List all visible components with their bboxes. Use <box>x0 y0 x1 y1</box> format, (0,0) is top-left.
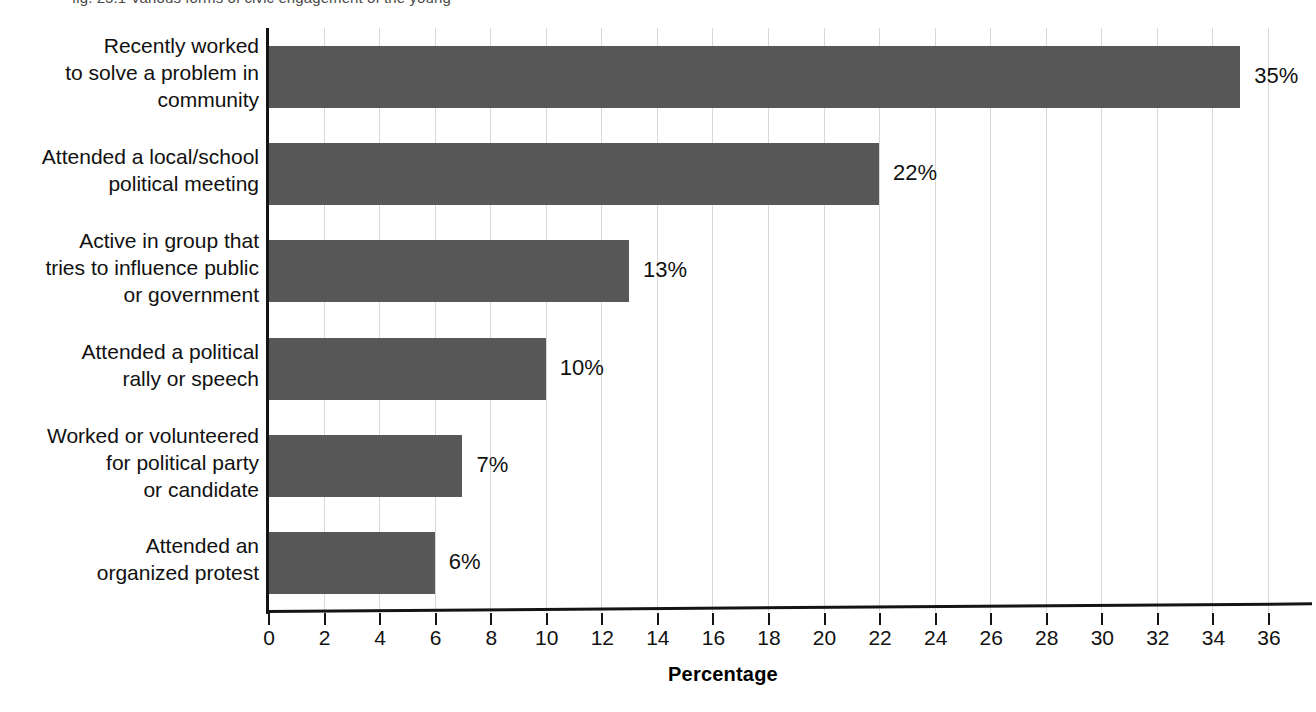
bar <box>268 143 879 205</box>
x-tick <box>435 613 437 625</box>
category-label-line: organized protest <box>0 559 259 586</box>
bar-value-label: 7% <box>476 452 508 478</box>
x-tick <box>546 613 548 625</box>
x-tick-label: 2 <box>295 626 355 650</box>
x-tick <box>1101 613 1103 625</box>
category-label-line: Attended a political <box>0 338 259 365</box>
x-axis-title: Percentage <box>0 663 1316 686</box>
x-tick <box>324 613 326 625</box>
x-tick-label: 28 <box>1017 626 1077 650</box>
x-tick-label: 10 <box>517 626 577 650</box>
x-tick <box>712 613 714 625</box>
category-label-line: rally or speech <box>0 365 259 392</box>
category-label-line: Attended an <box>0 532 259 559</box>
x-tick-label: 26 <box>961 626 1021 650</box>
x-tick-label: 20 <box>795 626 855 650</box>
x-tick <box>1268 613 1270 625</box>
bar <box>268 532 435 594</box>
bar <box>268 435 462 497</box>
category-label-line: tries to influence public <box>0 254 259 281</box>
x-tick-label: 6 <box>406 626 466 650</box>
category-label-line: or government <box>0 281 259 308</box>
category-label-line: political meeting <box>0 170 259 197</box>
x-tick <box>1046 613 1048 625</box>
category-label: Attended a local/schoolpolitical meeting <box>0 143 259 197</box>
category-label: Worked or volunteeredfor political party… <box>0 422 259 503</box>
category-label-line: to solve a problem in <box>0 59 259 86</box>
x-tick-label: 12 <box>572 626 632 650</box>
category-label-line: Active in group that <box>0 227 259 254</box>
x-tick-label: 34 <box>1183 626 1243 650</box>
x-tick-label: 32 <box>1128 626 1188 650</box>
y-axis-line <box>266 28 269 614</box>
x-tick-label: 24 <box>906 626 966 650</box>
category-label: Attended a politicalrally or speech <box>0 338 259 392</box>
category-label-line: or candidate <box>0 476 259 503</box>
x-tick-label: 16 <box>683 626 743 650</box>
x-tick-label: 22 <box>850 626 910 650</box>
category-label-line: Attended a local/school <box>0 143 259 170</box>
x-tick-label: 36 <box>1239 626 1299 650</box>
x-tick <box>268 613 270 625</box>
x-tick <box>1212 613 1214 625</box>
x-tick <box>824 613 826 625</box>
category-label: Attended anorganized protest <box>0 532 259 586</box>
bar-value-label: 22% <box>893 160 937 186</box>
category-label-line: Worked or volunteered <box>0 422 259 449</box>
x-tick <box>657 613 659 625</box>
bar-chart-figure: 35%22%13%10%7%6% 02468101214161820222426… <box>0 0 1316 712</box>
bar <box>268 338 546 400</box>
x-tick <box>379 613 381 625</box>
x-tick-label: 4 <box>350 626 410 650</box>
bar-value-label: 10% <box>560 355 604 381</box>
x-tick <box>879 613 881 625</box>
bar <box>268 46 1240 108</box>
x-tick <box>601 613 603 625</box>
x-tick <box>990 613 992 625</box>
x-tick <box>1157 613 1159 625</box>
gridline <box>1268 28 1269 612</box>
x-tick-label: 18 <box>739 626 799 650</box>
bar <box>268 240 629 302</box>
x-tick <box>490 613 492 625</box>
category-label-line: Recently worked <box>0 32 259 59</box>
x-tick-label: 8 <box>461 626 521 650</box>
bar-value-label: 13% <box>643 257 687 283</box>
x-tick <box>935 613 937 625</box>
category-label: Active in group thattries to influence p… <box>0 227 259 308</box>
category-label: Recently workedto solve a problem incomm… <box>0 32 259 113</box>
x-tick <box>768 613 770 625</box>
bar-value-label: 35% <box>1254 63 1298 89</box>
x-tick-label: 14 <box>628 626 688 650</box>
bar-value-label: 6% <box>449 549 481 575</box>
category-label-line: for political party <box>0 449 259 476</box>
bars-layer: 35%22%13%10%7%6% <box>268 28 1268 612</box>
x-tick-label: 0 <box>239 626 299 650</box>
category-label-line: community <box>0 86 259 113</box>
x-tick-label: 30 <box>1072 626 1132 650</box>
